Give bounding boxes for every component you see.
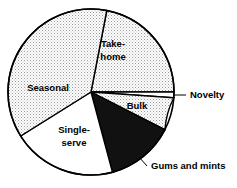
label-take-home-line1: Take- <box>101 38 125 49</box>
label-gums-and-mints: Gums and mints <box>151 160 225 171</box>
label-single-serve-line2: serve <box>62 137 87 148</box>
callout-gums-and-mints: Gums and mints <box>139 157 225 171</box>
label-single-serve-line1: Single- <box>58 124 90 135</box>
label-bulk: Bulk <box>127 100 148 111</box>
label-take-home-line2: home <box>100 51 125 62</box>
label-seasonal: Seasonal <box>27 82 69 93</box>
pie-chart-container: Take- home Seasonal Single- serve Bulk N… <box>0 0 237 188</box>
gums-and-mints-leader-line <box>139 157 147 166</box>
pie-chart-svg: Take- home Seasonal Single- serve Bulk N… <box>0 0 237 188</box>
callout-novelty: Novelty <box>174 89 225 100</box>
label-novelty: Novelty <box>190 89 225 100</box>
